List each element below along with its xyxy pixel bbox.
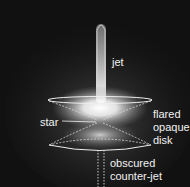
lower-disk-glow <box>62 121 138 149</box>
label-jet: jet <box>112 56 124 68</box>
label-star: star <box>40 116 58 128</box>
diagram-graphic <box>0 0 190 187</box>
jet-disk-diagram: jet star flared opaque disk obscured cou… <box>0 0 190 187</box>
label-disk-2: opaque <box>153 121 190 133</box>
label-counterjet-2: counter-jet <box>110 170 162 182</box>
label-disk-1: flared <box>153 108 181 120</box>
label-counterjet-1: obscured <box>110 157 155 169</box>
label-disk-3: disk <box>153 134 173 146</box>
